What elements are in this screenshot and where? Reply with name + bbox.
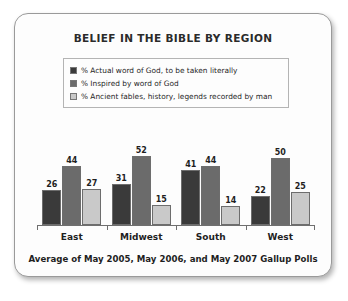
legend-item: % Ancient fables, history, legends recor… (70, 90, 282, 102)
chart-card: BELIEF IN THE BIBLE BY REGION % Actual w… (14, 13, 332, 277)
bar[interactable] (291, 192, 310, 225)
bar-value-label: 25 (295, 182, 306, 191)
bar[interactable] (82, 189, 101, 225)
legend-swatch-ancient-fables (70, 93, 77, 100)
bar[interactable] (251, 196, 270, 225)
category-label: East (37, 232, 107, 242)
legend-item: % Inspired by word of God (70, 77, 282, 89)
bar-value-label: 27 (86, 179, 97, 188)
bar[interactable] (62, 166, 81, 225)
axis-tick (246, 226, 247, 230)
bar-wrapper: 22 (251, 196, 270, 225)
category-axis-labels: EastMidwestSouthWest (37, 232, 315, 246)
bar-wrapper: 31 (112, 184, 131, 225)
bar-value-label: 41 (185, 160, 196, 169)
category-label: West (246, 232, 316, 242)
bar-value-label: 50 (275, 148, 286, 157)
chart-title: BELIEF IN THE BIBLE BY REGION (15, 32, 331, 44)
axis-tick (107, 226, 108, 230)
bar-value-label: 44 (205, 156, 216, 165)
bar[interactable] (271, 158, 290, 225)
chart-footnote: Average of May 2005, May 2006, and May 2… (15, 254, 331, 264)
bar-group: 264427 (42, 166, 101, 225)
bar-value-label: 31 (116, 174, 127, 183)
legend-label: % Inspired by word of God (81, 79, 179, 88)
bar-value-label: 52 (136, 146, 147, 155)
bar-value-label: 22 (255, 186, 266, 195)
bar-wrapper: 27 (82, 189, 101, 225)
bar[interactable] (221, 206, 240, 225)
legend-item: % Actual word of God, to be taken litera… (70, 64, 282, 76)
axis-tick (176, 226, 177, 230)
legend-swatch-inspired-word (70, 80, 77, 87)
bar-value-label: 14 (225, 196, 236, 205)
axis-tick (37, 226, 38, 230)
bar-group: 414414 (181, 166, 240, 225)
category-label: Midwest (107, 232, 177, 242)
legend-label: % Ancient fables, history, legends recor… (81, 92, 272, 101)
bar-value-label: 44 (66, 156, 77, 165)
bar-wrapper: 14 (221, 206, 240, 225)
bar-wrapper: 52 (132, 156, 151, 225)
chart-legend: % Actual word of God, to be taken litera… (63, 58, 289, 108)
bar-wrapper: 25 (291, 192, 310, 225)
bar[interactable] (201, 166, 220, 225)
legend-swatch-actual-word (70, 67, 77, 74)
bar-group: 315215 (112, 156, 171, 225)
bar-group: 225025 (251, 158, 310, 225)
bar-value-label: 15 (156, 195, 167, 204)
bar[interactable] (132, 156, 151, 225)
legend-label: % Actual word of God, to be taken litera… (81, 66, 237, 75)
bar[interactable] (181, 170, 200, 225)
bar-wrapper: 41 (181, 170, 200, 225)
axis-tick (314, 226, 315, 230)
bar[interactable] (112, 184, 131, 225)
bar-wrapper: 15 (152, 205, 171, 225)
bar[interactable] (42, 190, 61, 225)
category-label: South (176, 232, 246, 242)
bar-wrapper: 50 (271, 158, 290, 225)
bar-wrapper: 44 (62, 166, 81, 225)
bar-wrapper: 26 (42, 190, 61, 225)
bar-wrapper: 44 (201, 166, 220, 225)
plot-area: 264427315215414414225025 (37, 124, 315, 226)
bar[interactable] (152, 205, 171, 225)
bar-value-label: 26 (46, 180, 57, 189)
